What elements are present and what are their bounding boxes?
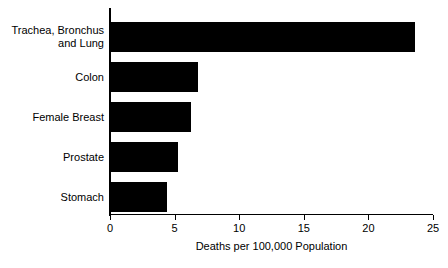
category-label: Colon	[75, 57, 104, 97]
category-label: Prostate	[63, 137, 104, 177]
x-tick-mark	[175, 215, 176, 220]
x-tick-label: 15	[298, 222, 310, 235]
x-tick-label: 0	[107, 222, 113, 235]
bar-trachea-bronchus-and-lung	[110, 22, 415, 52]
x-tick-mark	[239, 215, 240, 220]
x-tick-mark	[304, 215, 305, 220]
plot-area: Trachea, Bronchus and Lung Colon Female …	[110, 8, 433, 215]
category-label: Stomach	[61, 177, 104, 217]
category-label: Trachea, Bronchus and Lung	[11, 17, 104, 57]
x-tick-label: 20	[362, 222, 374, 235]
bar-chart: Trachea, Bronchus and Lung Colon Female …	[0, 0, 448, 268]
bar-female-breast	[110, 102, 191, 132]
category-label: Female Breast	[32, 97, 104, 137]
x-tick-mark	[433, 215, 434, 220]
bar-prostate	[110, 142, 178, 172]
bar-stomach	[110, 182, 167, 212]
x-tick-label: 25	[427, 222, 439, 235]
x-tick-mark	[368, 215, 369, 220]
x-tick-label: 10	[233, 222, 245, 235]
x-tick-label: 5	[172, 222, 178, 235]
bar-colon	[110, 62, 198, 92]
x-axis-title: Deaths per 100,000 Population	[110, 240, 433, 253]
x-tick-mark	[110, 215, 111, 220]
